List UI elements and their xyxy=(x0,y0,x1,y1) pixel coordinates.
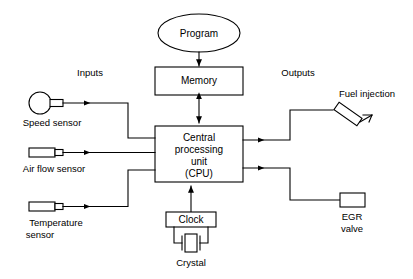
fuel-injection-label: Fuel injection xyxy=(339,88,395,99)
wire-cpu-to-egr-valve xyxy=(243,168,340,200)
air-flow-sensor-connector-icon xyxy=(55,150,63,156)
egr-valve-label-line2: valve xyxy=(341,223,363,234)
cpu-label-line2: processing xyxy=(175,144,223,155)
wire-cpu-to-fuel-injector xyxy=(243,110,333,140)
wire-temperature-arrowhead xyxy=(84,204,90,209)
wire-clock-to-crystal-left xyxy=(174,227,182,243)
block-diagram: Inputs Outputs Program Memory Central pr… xyxy=(0,0,413,279)
crystal-body-icon xyxy=(185,234,197,252)
wire-airflow-arrowhead xyxy=(84,150,90,155)
speed-sensor-connector-icon xyxy=(50,100,63,107)
egr-valve-icon xyxy=(340,193,365,207)
outputs-section-label: Outputs xyxy=(281,67,315,78)
egr-valve-label-line1: EGR xyxy=(342,211,363,222)
wire-speed-arrowhead xyxy=(84,100,90,105)
temperature-sensor-label-line2: sensor xyxy=(26,229,55,240)
temperature-sensor-label-line1: Temperature xyxy=(29,217,82,228)
cpu-label-line3: unit xyxy=(191,156,207,167)
wire-egr-arrowhead xyxy=(258,165,264,170)
wire-clock-to-crystal-right xyxy=(200,227,208,243)
diagram-canvas: Inputs Outputs Program Memory Central pr… xyxy=(0,0,413,279)
air-flow-sensor-label: Air flow sensor xyxy=(23,163,85,174)
inputs-section-label: Inputs xyxy=(77,67,103,78)
wire-fuel-arrowhead xyxy=(258,137,264,142)
speed-sensor-icon xyxy=(29,92,51,114)
fuel-injector-body xyxy=(334,102,362,125)
program-label: Program xyxy=(180,28,218,39)
fuel-injector-icon xyxy=(334,102,362,125)
memory-label: Memory xyxy=(181,75,217,86)
cpu-label-line1: Central xyxy=(183,132,215,143)
air-flow-sensor-icon xyxy=(29,148,55,157)
speed-sensor-label: Speed sensor xyxy=(23,117,82,128)
crystal-label: Crystal xyxy=(176,257,206,268)
wire-temperature-sensor-to-cpu xyxy=(63,170,155,207)
cpu-label-line4: (CPU) xyxy=(185,168,213,179)
temperature-sensor-icon xyxy=(29,202,55,211)
clock-label: Clock xyxy=(178,214,204,225)
temperature-sensor-connector-icon xyxy=(55,204,63,210)
